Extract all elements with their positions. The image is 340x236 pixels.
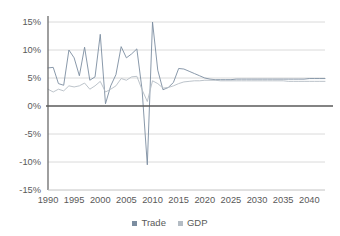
y-axis-tick-label: 15% (22, 17, 41, 27)
x-axis-tick-label: 2025 (221, 195, 242, 205)
x-axis-tick-labels: 1990199520002005201020152020202520302035… (38, 195, 320, 205)
legend-label: GDP (187, 218, 208, 228)
x-axis-tick-label: 2035 (273, 195, 294, 205)
legend-swatch-icon (178, 221, 183, 226)
y-axis-tick-label: -10% (19, 157, 41, 167)
legend-item-trade[interactable]: Trade (132, 218, 165, 228)
legend-label: Trade (141, 218, 165, 228)
chart-svg: 15%10%5%0%-5%-10%-15% 199019952000200520… (0, 0, 340, 210)
legend-item-gdp[interactable]: GDP (178, 218, 208, 228)
series-line-trade (48, 22, 325, 165)
chart-legend: TradeGDP (0, 212, 340, 234)
legend-swatch-icon (132, 221, 137, 226)
x-axis-tick-label: 2040 (299, 195, 320, 205)
x-axis-tick-label: 2005 (116, 195, 137, 205)
chart-container: 15%10%5%0%-5%-10%-15% 199019952000200520… (0, 0, 340, 236)
axis-lines-group (46, 16, 333, 190)
y-axis-tick-label: 0% (28, 101, 41, 111)
x-axis-tick-label: 2010 (142, 195, 163, 205)
x-axis-tick-label: 1995 (64, 195, 85, 205)
plot-area: 15%10%5%0%-5%-10%-15% 199019952000200520… (0, 0, 340, 210)
y-axis-tick-label: -15% (19, 185, 41, 195)
x-axis-tick-label: 2015 (168, 195, 189, 205)
y-axis-tick-label: -5% (24, 129, 41, 139)
series-group (48, 22, 325, 165)
x-axis-tick-label: 2030 (247, 195, 268, 205)
y-axis-tick-label: 10% (22, 45, 41, 55)
x-axis-tick-label: 1990 (38, 195, 59, 205)
x-axis-tick-label: 2000 (90, 195, 111, 205)
y-axis-tick-label: 5% (28, 73, 41, 83)
x-axis-tick-label: 2020 (194, 195, 215, 205)
y-axis-tick-labels: 15%10%5%0%-5%-10%-15% (19, 17, 41, 195)
